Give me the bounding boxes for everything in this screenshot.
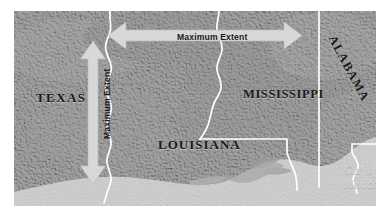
map-canvas[interactable]: TEXAS LOUISIANA MISSISSIPPI ALABAMA Gulf…: [14, 11, 376, 206]
map-graphic: [14, 11, 376, 206]
relief-map-figure: TEXAS LOUISIANA MISSISSIPPI ALABAMA Gulf…: [0, 0, 389, 219]
